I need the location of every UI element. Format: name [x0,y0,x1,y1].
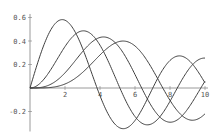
x-tick-label: 6 [133,91,137,99]
x-tick-label: 2 [63,91,67,99]
series-line-j3 [30,37,205,122]
plot-lines [30,20,205,129]
x-tick-label: 10 [201,91,209,99]
y-tick-label: -0.2 [9,108,26,116]
y-tick-label: 0.6 [13,14,26,22]
bessel-chart: 246810-0.20.20.40.6 [0,0,223,139]
axes: 246810-0.20.20.40.6 [9,14,209,132]
y-tick-label: 0.2 [13,61,26,69]
y-tick-label: 0.4 [13,38,26,46]
